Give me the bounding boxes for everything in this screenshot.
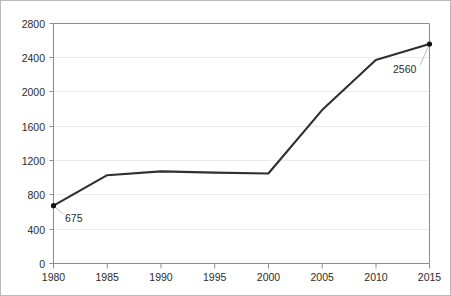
ytick-label-800: 800 [7, 189, 45, 200]
gridlines [54, 24, 430, 230]
line-chart-canvas [1, 1, 451, 296]
chart-figure: 2800 2400 2000 1600 1200 800 400 0 1980 … [0, 0, 451, 296]
xtick-label-1995: 1995 [203, 272, 226, 283]
xtick-label-2005: 2005 [311, 272, 334, 283]
y-axis-ticks [50, 24, 54, 264]
last-point-label: 2560 [393, 64, 416, 75]
xtick-label-1985: 1985 [96, 272, 119, 283]
ytick-label-1200: 1200 [7, 155, 45, 166]
marker-1980 [51, 203, 56, 208]
ytick-label-0: 0 [7, 258, 45, 269]
ytick-label-2000: 2000 [7, 86, 45, 97]
marker-2015 [427, 41, 432, 46]
annotation-leader-lines [54, 44, 430, 214]
x-axis-ticks [54, 264, 430, 269]
xtick-label-2010: 2010 [364, 272, 387, 283]
first-point-label: 675 [65, 213, 83, 224]
ytick-label-1600: 1600 [7, 121, 45, 132]
xtick-label-2000: 2000 [257, 272, 280, 283]
axes [54, 24, 430, 264]
xtick-label-2015: 2015 [418, 272, 441, 283]
ytick-label-400: 400 [7, 224, 45, 235]
data-point-markers [51, 41, 432, 208]
xtick-label-1980: 1980 [42, 272, 65, 283]
data-line-series-1 [54, 44, 430, 206]
ytick-label-2400: 2400 [7, 52, 45, 63]
xtick-label-1990: 1990 [149, 272, 172, 283]
ytick-label-2800: 2800 [7, 18, 45, 29]
